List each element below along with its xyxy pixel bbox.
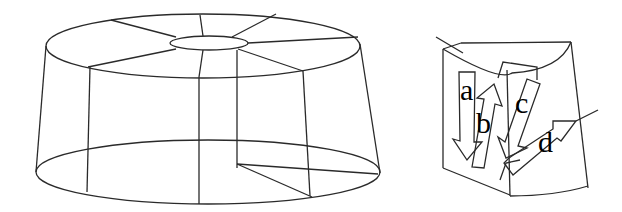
wedge-top-edge xyxy=(443,43,461,49)
top-ellipse xyxy=(46,14,360,78)
label-b: b xyxy=(476,106,491,139)
radial-line xyxy=(232,14,276,37)
cone-wireframe xyxy=(36,14,380,204)
diagram-canvas: a b c d xyxy=(0,0,622,212)
radial-line xyxy=(199,50,203,77)
wedge-detail: a b c d xyxy=(436,37,598,196)
label-a: a xyxy=(460,73,473,106)
radial-line xyxy=(238,49,303,71)
vertical-edge xyxy=(87,67,90,192)
wedge-right-edge xyxy=(571,42,588,188)
center-hole xyxy=(170,36,248,50)
wedge-top-arc xyxy=(443,42,571,75)
wedge-bottom-line xyxy=(237,164,378,174)
leader-line xyxy=(436,37,463,53)
radial-line xyxy=(248,37,358,43)
radial-line xyxy=(111,20,176,37)
left-side-edge xyxy=(36,46,46,172)
wedge-bottom-edge xyxy=(443,168,510,195)
radial-line xyxy=(200,15,203,36)
right-side-edge xyxy=(360,44,380,173)
radial-line xyxy=(88,49,176,67)
wedge-bottom-arc xyxy=(510,186,588,196)
wedge-top-edge xyxy=(461,42,571,43)
label-d: d xyxy=(538,125,553,158)
vertical-edge xyxy=(303,71,310,196)
label-c: c xyxy=(515,86,528,119)
